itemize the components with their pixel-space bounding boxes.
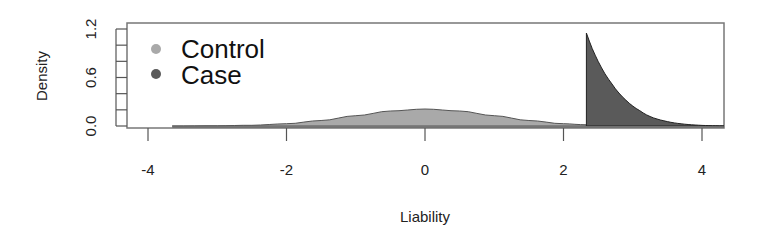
x-axis-title: Liability	[400, 208, 451, 225]
control-density-area	[172, 109, 586, 126]
density-chart: 0.00.61.2 -4-2024 Liability Density Cont…	[0, 0, 758, 242]
x-tick-label: 2	[559, 161, 567, 178]
legend-swatch-case	[151, 69, 161, 79]
y-axis-title: Density	[33, 50, 50, 101]
y-axis: 0.00.61.2	[82, 19, 127, 137]
x-axis: -4-2024	[141, 128, 706, 178]
x-tick-label: -2	[280, 161, 293, 178]
x-tick-label: 0	[421, 161, 429, 178]
legend: Control Case	[151, 34, 265, 90]
y-tick-label: 0.0	[82, 116, 99, 137]
y-tick-label: 1.2	[82, 19, 99, 40]
legend-swatch-control	[151, 44, 161, 54]
case-density-area	[586, 33, 724, 126]
y-tick-label: 0.6	[82, 67, 99, 88]
legend-label-case: Case	[181, 60, 242, 90]
x-tick-label: 4	[698, 161, 706, 178]
x-tick-label: -4	[141, 161, 154, 178]
